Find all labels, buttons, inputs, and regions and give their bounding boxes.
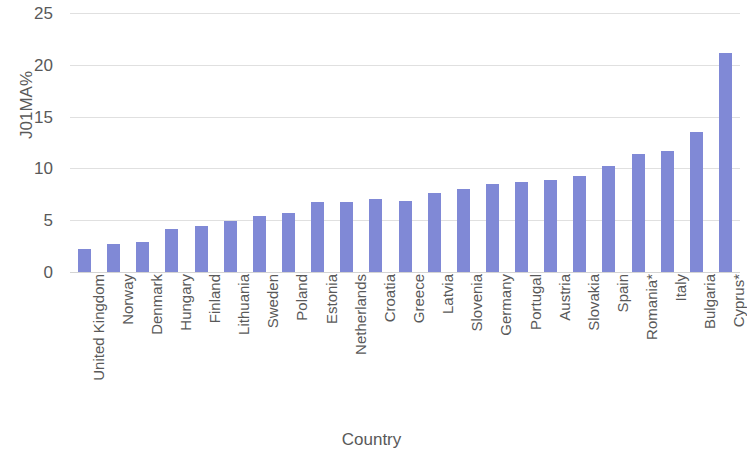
bar [253,216,266,272]
bar [719,53,732,272]
y-tick-0: 0 [0,264,62,281]
x-tick-label: Latvia [440,274,455,424]
bar [457,189,470,272]
x-tick-label: Estonia [324,274,339,424]
bar [661,151,674,272]
x-tick-label: Romania* [644,274,659,424]
gridline-0 [70,272,740,273]
x-tick-label: Slovakia [586,274,601,424]
bar [340,202,353,272]
bar [544,180,557,272]
x-tick-label: Slovenia [469,274,484,424]
x-tick-label: Bulgaria [702,274,717,424]
x-tick-label: Lithuania [236,274,251,424]
bar [690,132,703,272]
y-tick-20: 20 [0,57,62,74]
x-tick-label: Italy [673,274,688,424]
x-tick-label: Greece [411,274,426,424]
y-tick-10: 10 [0,160,62,177]
bar [602,166,615,272]
bar [78,249,91,272]
bar-series [70,13,740,272]
x-tick-label: Austria [557,274,572,424]
plot-area [70,13,740,272]
bar [632,154,645,272]
y-tick-25: 25 [0,5,62,22]
bar [282,213,295,272]
x-tick-label: Portugal [528,274,543,424]
x-tick-label: Netherlands [353,274,368,424]
x-tick-label: Finland [207,274,222,424]
bar [369,199,382,272]
x-tick-label: Croatia [382,274,397,424]
x-tick-label: Poland [294,274,309,424]
y-axis-tick-labels: 0510152025 [0,0,62,460]
x-tick-label: Denmark [149,274,164,424]
bar [224,221,237,272]
bar [136,242,149,272]
x-tick-label: Hungary [178,274,193,424]
x-axis-title: Country [0,430,743,450]
bar [165,229,178,273]
bar [399,201,412,272]
x-tick-label: Norway [120,274,135,424]
x-tick-label: Cyprus* [731,274,746,424]
bar [573,176,586,272]
bar [195,226,208,272]
bar [486,184,499,272]
x-tick-label: Sweden [265,274,280,424]
y-tick-5: 5 [0,212,62,229]
x-tick-label: Spain [615,274,630,424]
x-axis-tick-labels: United KingdomNorwayDenmarkHungaryFinlan… [70,274,740,424]
bar [428,193,441,272]
bar [107,244,120,272]
y-tick-15: 15 [0,109,62,126]
bar [311,202,324,272]
x-tick-label: Germany [498,274,513,424]
bar [515,182,528,272]
x-tick-label: United Kingdom [91,274,106,424]
